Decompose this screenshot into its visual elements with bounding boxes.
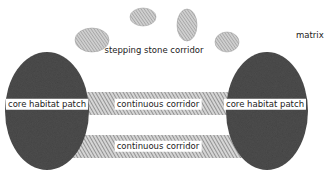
corridor-top-label: continuous corridor (115, 99, 202, 110)
stepping-stone-4 (215, 32, 239, 52)
core-patch-right (226, 52, 308, 170)
corridor-bottom-label: continuous corridor (115, 141, 202, 152)
matrix-label: matrix (296, 31, 324, 40)
diagram-canvas: matrix stepping stone corridor core habi… (0, 0, 325, 173)
core-patch-left (5, 52, 89, 170)
stepping-stone-label: stepping stone corridor (104, 46, 203, 55)
stepping-stone-3 (177, 9, 197, 41)
core-patch-left-label: core habitat patch (6, 99, 88, 110)
stepping-stone-2 (130, 8, 156, 26)
core-patch-right-label: core habitat patch (224, 99, 306, 110)
